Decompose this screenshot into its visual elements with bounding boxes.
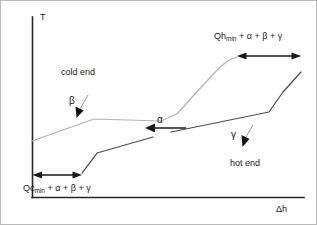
qc-min-rest: + α + β + γ (45, 183, 91, 193)
y-axis-label: T (40, 12, 46, 22)
gamma-label: γ (231, 129, 236, 140)
x-axis-label: Δh (276, 204, 287, 214)
hot-composite-curve-left (82, 137, 153, 173)
qc-min-label: Qcmin + α + β + γ (23, 183, 91, 194)
qh-min-rest: + α + β + γ (237, 31, 283, 41)
qh-min-label: Qhmin + α + β + γ (214, 31, 283, 42)
qc-measure-arrow (33, 171, 83, 178)
hot-end-label: hot end (230, 158, 260, 168)
alpha-label: α (157, 114, 163, 125)
hot-composite-curve-right (171, 72, 301, 132)
axes-group (32, 17, 304, 198)
cold-end-label: cold end (61, 67, 95, 77)
beta-pointer (76, 95, 89, 118)
gamma-pointer (242, 125, 254, 147)
qh-measure-arrow (237, 52, 301, 59)
alpha-arrow (145, 124, 186, 133)
qc-min-base: Qc (23, 183, 35, 193)
qh-min-subscript: min (226, 35, 237, 42)
composite-curve-figure: T Δh cold end hot end α β γ Qcmin + α + … (0, 0, 317, 225)
qc-min-subscript: min (35, 187, 46, 194)
figure-canvas: T Δh cold end hot end α β γ Qcmin + α + … (1, 1, 317, 225)
beta-label: β (69, 95, 75, 106)
qh-min-base: Qh (214, 31, 226, 41)
